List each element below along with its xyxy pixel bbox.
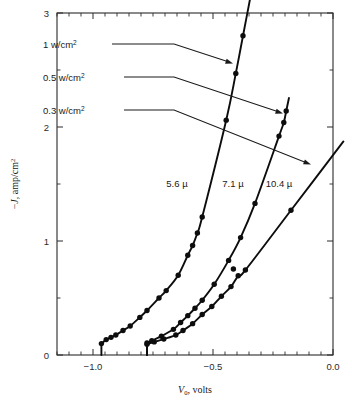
callout-label: 0.3 w/cm2 <box>43 105 85 117</box>
data-point-outlier <box>231 266 236 271</box>
callout-leader-line <box>124 77 279 112</box>
data-point <box>171 327 176 332</box>
curve-5.6 <box>101 0 252 344</box>
data-point <box>120 328 125 333</box>
svg-text:V0, volts: V0, volts <box>178 384 212 396</box>
data-point <box>200 298 205 303</box>
data-point <box>178 320 183 325</box>
data-point <box>190 321 195 326</box>
data-points <box>99 33 294 347</box>
data-point <box>99 341 104 346</box>
data-point <box>192 306 197 311</box>
data-point <box>233 71 238 76</box>
data-point <box>176 273 181 278</box>
data-point <box>164 288 169 293</box>
x-tick-label: −0.5 <box>204 361 223 372</box>
callout-arrowhead <box>303 159 312 167</box>
data-point <box>200 312 205 317</box>
curve-7.1 <box>147 98 289 343</box>
data-point <box>243 267 248 272</box>
data-point <box>180 328 185 333</box>
data-point <box>113 332 118 337</box>
data-point <box>284 108 289 113</box>
data-point <box>212 282 217 287</box>
irradiance-callouts: 1 w/cm20.5 w/cm20.3 w/cm2 <box>43 39 312 167</box>
data-point <box>238 235 243 240</box>
y-axis-title: −J, amp/cm2 <box>9 159 20 210</box>
figure-container: −1.0−0.50.00123 1 w/cm20.5 w/cm20.3 w/cm… <box>0 0 352 411</box>
data-point <box>240 33 245 38</box>
callout-arrowhead <box>225 59 234 66</box>
data-point <box>137 315 142 320</box>
svg-text:−J, amp/cm2: −J, amp/cm2 <box>9 159 20 210</box>
data-point <box>195 230 200 235</box>
data-point <box>281 120 286 125</box>
callout-label: 1 w/cm2 <box>43 39 77 51</box>
x-tick-label: 0.0 <box>326 361 339 372</box>
data-point <box>128 323 133 328</box>
y-tick-label: 3 <box>44 8 49 19</box>
curve-thickness-labels: 5.6 µ7.1 µ10.4 µ <box>166 178 292 189</box>
chart-canvas: −1.0−0.50.00123 1 w/cm20.5 w/cm20.3 w/cm… <box>0 0 352 411</box>
data-point <box>152 339 157 344</box>
data-point <box>190 243 195 248</box>
data-point <box>156 295 161 300</box>
y-tick-label: 1 <box>44 236 49 247</box>
curve-label: 5.6 µ <box>166 178 188 189</box>
data-point <box>161 336 166 341</box>
callout-1w: 1 w/cm2 <box>43 39 234 66</box>
data-point <box>288 208 293 213</box>
axis-tick-labels: −1.0−0.50.00123 <box>44 8 340 373</box>
x-axis-title: V0, volts <box>178 384 212 396</box>
callout-arrowhead <box>275 109 284 116</box>
data-point <box>173 332 178 337</box>
data-point <box>236 273 241 278</box>
callout-label: 0.5 w/cm2 <box>43 72 85 84</box>
data-point <box>108 335 113 340</box>
data-point <box>226 258 231 263</box>
curve-label: 7.1 µ <box>222 178 244 189</box>
x-tick-label: −1.0 <box>84 361 103 372</box>
data-point <box>252 201 257 206</box>
data-point <box>144 341 149 346</box>
data-point <box>185 313 190 318</box>
curve-label: 10.4 µ <box>266 178 293 189</box>
curve-10.4 <box>147 141 343 344</box>
data-point <box>276 133 281 138</box>
data-point <box>144 308 149 313</box>
data-point <box>228 284 233 289</box>
y-tick-label: 2 <box>44 122 49 133</box>
data-point <box>185 253 190 258</box>
data-point <box>200 214 205 219</box>
callout-leader-line <box>112 44 229 62</box>
y-tick-label: 0 <box>44 350 49 361</box>
data-point <box>104 337 109 342</box>
data-point <box>209 304 214 309</box>
data-point <box>219 294 224 299</box>
data-point <box>224 117 229 122</box>
